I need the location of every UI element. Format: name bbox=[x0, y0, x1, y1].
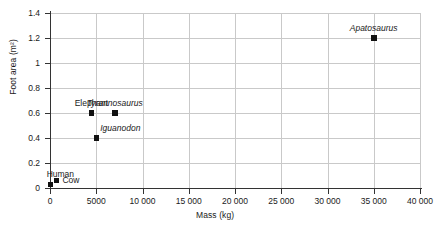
data-point-label: Cow bbox=[62, 175, 79, 185]
data-point-marker bbox=[112, 110, 118, 116]
x-axis-tick-label: 40 000 bbox=[390, 196, 438, 206]
y-axis-tick bbox=[45, 38, 50, 39]
data-point-label: Tyrannosaurus bbox=[87, 98, 143, 108]
x-axis-tick bbox=[281, 189, 282, 194]
y-axis-tick-label: 0 bbox=[0, 183, 40, 193]
gridline-vertical bbox=[281, 13, 282, 188]
data-point-marker bbox=[89, 110, 95, 116]
x-axis-tick bbox=[328, 189, 329, 194]
y-axis-tick-label: 0.4 bbox=[0, 133, 40, 143]
x-axis-tick bbox=[189, 189, 190, 194]
y-axis-tick-label: 1 bbox=[0, 58, 40, 68]
x-axis-tick bbox=[420, 189, 421, 194]
gridline-vertical bbox=[189, 13, 190, 188]
x-axis-tick bbox=[143, 189, 144, 194]
gridline-vertical bbox=[328, 13, 329, 188]
y-axis-tick bbox=[45, 63, 50, 64]
y-axis-tick-label: 0.6 bbox=[0, 108, 40, 118]
y-axis-tick bbox=[45, 113, 50, 114]
x-axis-title: Mass (kg) bbox=[196, 210, 234, 220]
x-axis-tick bbox=[50, 189, 51, 194]
data-point-marker bbox=[54, 178, 60, 184]
y-axis-tick bbox=[45, 88, 50, 89]
x-axis-tick bbox=[235, 189, 236, 194]
data-point-label: Apatosaurus bbox=[350, 23, 398, 33]
y-axis-tick bbox=[45, 13, 50, 14]
y-axis-tick bbox=[45, 138, 50, 139]
y-axis-tick-label: 1.2 bbox=[0, 33, 40, 43]
data-point-marker bbox=[371, 35, 377, 41]
y-axis-tick-label: 0.8 bbox=[0, 83, 40, 93]
data-point-marker bbox=[94, 135, 100, 141]
y-axis-tick-label: 0.2 bbox=[0, 158, 40, 168]
gridline-vertical bbox=[235, 13, 236, 188]
gridline-vertical bbox=[420, 13, 421, 188]
data-point-marker bbox=[48, 182, 54, 188]
data-point-label: Iguanodon bbox=[100, 123, 140, 133]
y-axis-line bbox=[50, 11, 51, 190]
x-axis-tick bbox=[374, 189, 375, 194]
y-axis-tick-label: 1.4 bbox=[0, 8, 40, 18]
x-axis-tick bbox=[96, 189, 97, 194]
y-axis-tick bbox=[45, 163, 50, 164]
scatter-chart: Foot area (m²) Mass (kg) 00.20.40.60.811… bbox=[0, 0, 438, 238]
